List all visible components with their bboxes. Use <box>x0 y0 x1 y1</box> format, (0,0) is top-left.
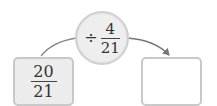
division-operator: ÷ <box>84 30 97 46</box>
input-denominator: 21 <box>33 83 53 100</box>
input-box: 20 21 <box>13 57 74 106</box>
operation-denominator: 21 <box>101 40 120 56</box>
operation-fraction: 4 21 <box>101 21 120 56</box>
operation-circle: ÷ 4 21 <box>75 11 129 65</box>
operation-numerator: 4 <box>105 21 115 37</box>
answer-box[interactable] <box>141 57 202 106</box>
input-connector-line <box>41 38 76 56</box>
input-numerator: 20 <box>33 63 53 80</box>
output-arrow <box>127 38 169 55</box>
input-fraction: 20 21 <box>31 63 57 100</box>
